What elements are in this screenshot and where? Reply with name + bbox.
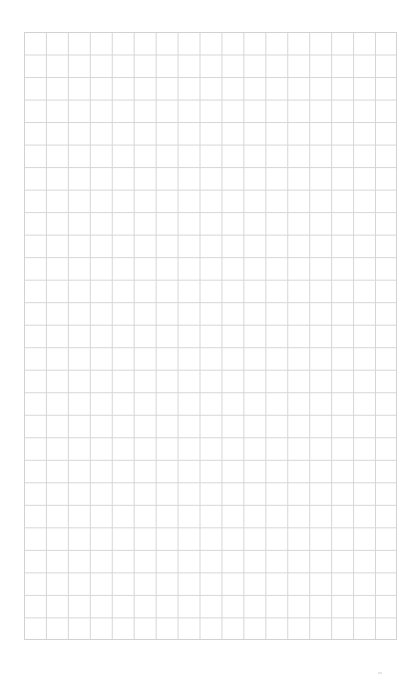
footer-text (152, 668, 232, 676)
footer-page-mark (378, 672, 382, 674)
graph-paper-page (0, 0, 418, 679)
grid-area (24, 32, 397, 640)
